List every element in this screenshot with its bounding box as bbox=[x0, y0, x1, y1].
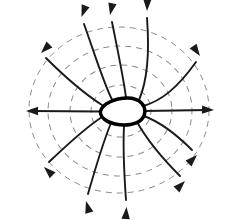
diagram-canvas bbox=[0, 0, 230, 220]
field-line-E-right bbox=[144, 110, 208, 111]
physics-field-diagram bbox=[0, 0, 230, 220]
charged-conductor-blob bbox=[100, 98, 144, 125]
conductor-outline bbox=[100, 98, 144, 125]
field-line-E-left bbox=[32, 111, 100, 112]
